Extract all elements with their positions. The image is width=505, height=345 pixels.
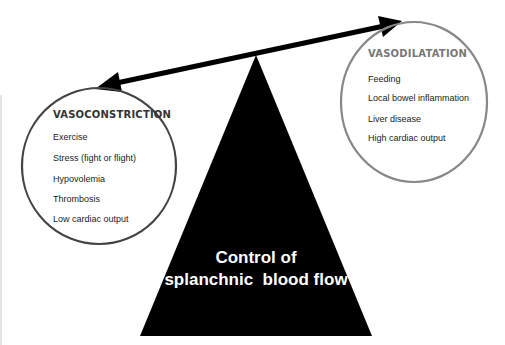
vasoconstriction-item: Stress (fight or flight): [53, 153, 136, 163]
vasoconstriction-title: VASOCONSTRICTION: [53, 109, 171, 120]
vasoconstriction-item: Low cardiac output: [53, 214, 129, 224]
vasodilatation-item: Local bowel inflammation: [368, 93, 469, 103]
center-label-line2: splanchnic blood flow: [150, 269, 362, 291]
vasodilatation-item: High cardiac output: [368, 133, 446, 143]
vasodilatation-item: Liver disease: [368, 114, 421, 124]
vasoconstriction-item: Hypovolemia: [53, 174, 105, 184]
center-label: Control of splanchnic blood flow: [150, 247, 362, 291]
vasodilatation-title: VASODILATATION: [368, 48, 467, 59]
fulcrum-triangle: [140, 55, 372, 336]
vasodilatation-item: Feeding: [368, 74, 401, 84]
vasoconstriction-item: Exercise: [53, 132, 88, 142]
vasoconstriction-item: Thrombosis: [53, 194, 100, 204]
center-label-line1: Control of: [150, 247, 362, 269]
